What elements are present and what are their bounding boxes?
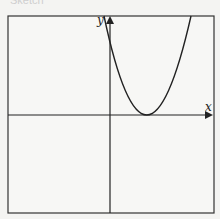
y-axis-label: y — [97, 13, 104, 27]
graph — [0, 0, 220, 219]
x-axis-label: x — [205, 100, 212, 114]
